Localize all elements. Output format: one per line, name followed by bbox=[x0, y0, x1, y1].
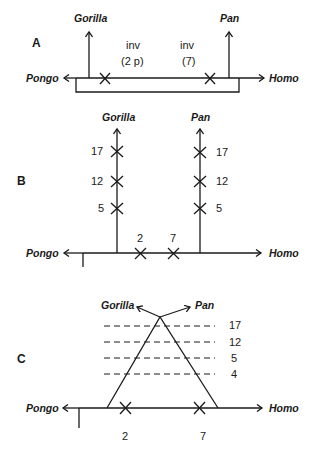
taxon-pongo: Pongo bbox=[26, 73, 59, 84]
baseline-mark-label: 7 bbox=[200, 431, 206, 442]
level-label: 12 bbox=[229, 337, 241, 348]
inversion-chromosome: (2 p) bbox=[121, 56, 144, 67]
triangle-lineage bbox=[107, 317, 218, 408]
taxon-pan: Pan bbox=[191, 112, 210, 123]
pan-mark-label: 12 bbox=[216, 176, 228, 187]
pan-mark-label: 5 bbox=[216, 203, 222, 214]
taxon-gorilla: Gorilla bbox=[102, 112, 135, 123]
baseline-mark-label: 7 bbox=[170, 233, 176, 244]
taxon-homo: Homo bbox=[269, 73, 299, 84]
taxon-pan: Pan bbox=[220, 13, 239, 24]
pan-branch-arrow bbox=[160, 307, 190, 317]
taxon-gorilla: Gorilla bbox=[101, 300, 134, 311]
phylogeny-figure: A Gorilla Pan Pongo Homo inv (2 p) inv (… bbox=[0, 0, 318, 457]
gorilla-mark-label: 17 bbox=[91, 146, 103, 157]
panel-label-c: C bbox=[17, 353, 26, 365]
taxon-pongo: Pongo bbox=[26, 403, 59, 414]
gorilla-mark-label: 5 bbox=[98, 203, 104, 214]
panel-label-a: A bbox=[32, 37, 41, 49]
inversion-label: inv bbox=[126, 40, 140, 51]
baseline-mark-label: 2 bbox=[137, 233, 143, 244]
gorilla-mark-label: 12 bbox=[91, 176, 103, 187]
inversion-label: inv bbox=[180, 40, 194, 51]
level-label: 5 bbox=[231, 353, 237, 364]
taxon-homo: Homo bbox=[269, 248, 299, 259]
baseline-mark-label: 2 bbox=[122, 431, 128, 442]
panel-a-graphics bbox=[64, 32, 264, 92]
diagram-lines bbox=[0, 0, 318, 457]
inversion-chromosome: (7) bbox=[182, 56, 195, 67]
level-label: 17 bbox=[229, 320, 241, 331]
taxon-gorilla: Gorilla bbox=[74, 13, 107, 24]
taxon-homo: Homo bbox=[269, 403, 299, 414]
gorilla-branch-arrow bbox=[137, 307, 160, 317]
level-label: 4 bbox=[231, 369, 237, 380]
taxon-pan: Pan bbox=[195, 300, 214, 311]
taxon-pongo: Pongo bbox=[26, 248, 59, 259]
pan-mark-label: 17 bbox=[216, 147, 228, 158]
bracket bbox=[76, 78, 239, 92]
panel-label-b: B bbox=[17, 175, 26, 187]
